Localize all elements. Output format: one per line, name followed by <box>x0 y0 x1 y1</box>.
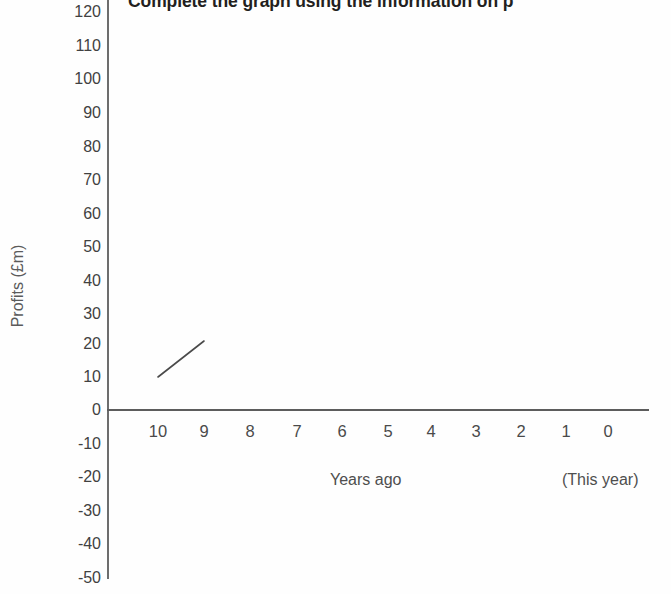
y-axis-tick-label: 30 <box>39 306 101 322</box>
x-axis-tick-label: 2 <box>501 423 541 440</box>
x-axis-title: Years ago <box>330 471 401 489</box>
y-axis-tick-label: -30 <box>39 503 101 519</box>
y-axis-title: Profits (£m) <box>9 216 27 356</box>
y-axis-tick-label: 0 <box>39 402 101 418</box>
y-axis-tick-label: 110 <box>39 38 101 54</box>
y-axis-tick-label: 40 <box>39 273 101 289</box>
y-axis-tick-label: 20 <box>39 336 101 352</box>
y-axis-tick-label: -50 <box>39 570 101 586</box>
profits-graph: Complete the graph using the information… <box>0 0 671 594</box>
x-axis-tick-label: 3 <box>456 423 496 440</box>
y-axis-tick-label: -20 <box>39 469 101 485</box>
y-axis-line <box>107 0 109 579</box>
y-axis-tick-label: 80 <box>39 139 101 155</box>
y-axis-tick-label: 90 <box>39 105 101 121</box>
x-axis-tick-label: 8 <box>230 423 270 440</box>
y-axis-tick-label: 70 <box>39 172 101 188</box>
this-year-annotation: (This year) <box>562 471 638 489</box>
y-axis-tick-label: 100 <box>39 71 101 87</box>
x-axis-line <box>107 409 649 411</box>
x-axis-tick-label: 7 <box>277 423 317 440</box>
x-axis-tick-label: 0 <box>588 423 628 440</box>
x-axis-tick-labels: 109876543210 <box>0 423 671 449</box>
x-axis-tick-label: 9 <box>184 423 224 440</box>
x-axis-tick-label: 6 <box>322 423 362 440</box>
y-axis-tick-labels: 1201101009080706050403020100-10-20-30-40… <box>35 0 101 594</box>
x-axis-tick-label: 4 <box>411 423 451 440</box>
page-title: Complete the graph using the information… <box>128 0 671 12</box>
y-axis-tick-label: -40 <box>39 536 101 552</box>
y-axis-tick-label: 60 <box>39 206 101 222</box>
x-axis-tick-label: 10 <box>138 423 178 440</box>
x-axis-tick-label: 5 <box>368 423 408 440</box>
data-series-line <box>158 341 204 377</box>
y-axis-tick-label: 120 <box>39 4 101 20</box>
y-axis-tick-label: 50 <box>39 239 101 255</box>
x-axis-tick-label: 1 <box>546 423 586 440</box>
y-axis-tick-label: 10 <box>39 369 101 385</box>
